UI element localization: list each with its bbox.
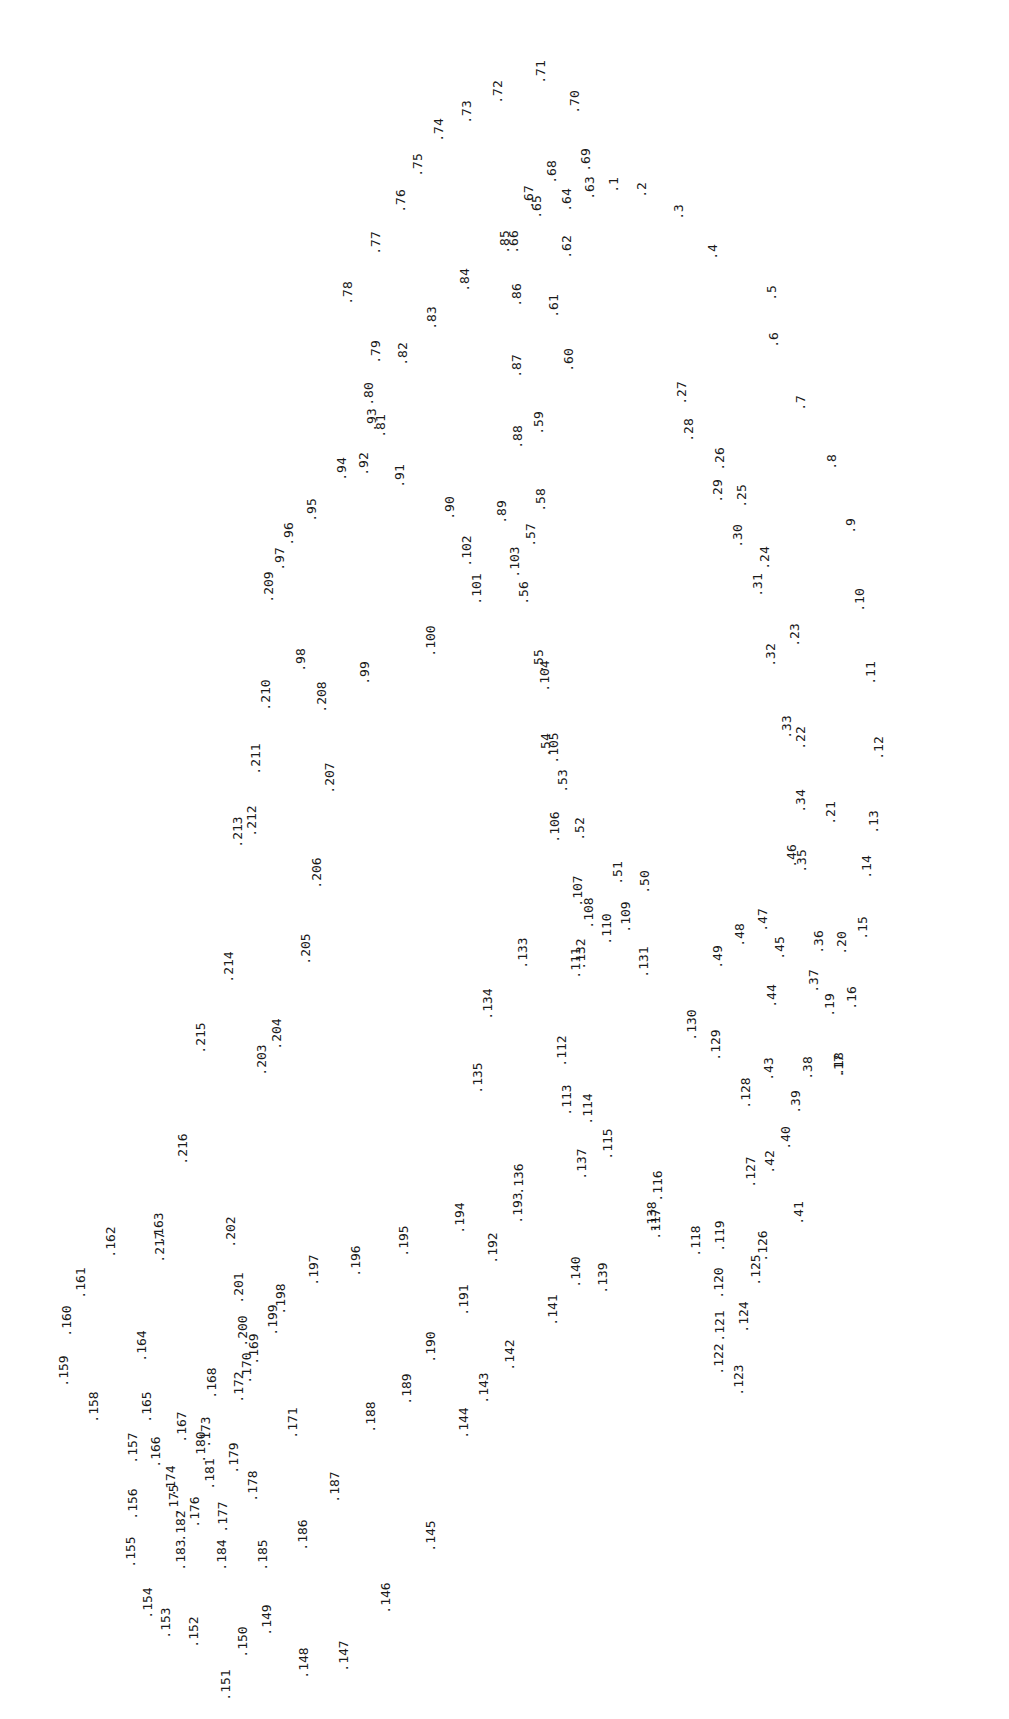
- point-label-96: .96: [282, 522, 295, 545]
- point-label-211: .211: [249, 743, 262, 774]
- point-label-123: .123: [732, 1364, 745, 1395]
- point-label-63: .63: [583, 176, 596, 199]
- point-label-78: .78: [341, 281, 354, 304]
- point-label-59: .59: [532, 411, 545, 434]
- point-label-161: .161: [74, 1267, 87, 1298]
- point-label-105: .105: [547, 732, 560, 763]
- point-label-15: .15: [856, 916, 869, 939]
- point-label-164: .164: [135, 1330, 148, 1361]
- point-label-129: .129: [709, 1029, 722, 1060]
- point-label-162: .162: [104, 1226, 117, 1257]
- point-label-106: .106: [548, 811, 561, 842]
- point-label-102: .102: [460, 535, 473, 566]
- point-label-179: .179: [227, 1442, 240, 1473]
- point-label-213: .213: [231, 816, 244, 847]
- point-label-210: .210: [259, 679, 272, 710]
- point-label-138: .138: [645, 1201, 658, 1232]
- point-label-188: .188: [364, 1401, 377, 1432]
- point-label-206: .206: [310, 857, 323, 888]
- point-label-196: .196: [349, 1245, 362, 1276]
- dot-plot-canvas: .1.2.3.4.5.6.7.8.9.10.11.12.13.14.15.16.…: [0, 0, 1009, 1719]
- point-label-187: .187: [328, 1471, 341, 1502]
- point-label-216: .216: [176, 1133, 189, 1164]
- point-label-115: .115: [601, 1128, 614, 1159]
- point-label-139: .139: [596, 1262, 609, 1293]
- point-label-113: .113: [560, 1084, 573, 1115]
- point-label-26: .26: [713, 447, 726, 470]
- point-label-34: .34: [794, 789, 807, 812]
- point-label-8: .8: [825, 454, 838, 470]
- point-label-142: .142: [503, 1339, 516, 1370]
- point-label-92: .92: [357, 452, 370, 475]
- point-label-128: .128: [739, 1077, 752, 1108]
- point-label-20: .20: [835, 931, 848, 954]
- point-label-147: .147: [337, 1640, 350, 1671]
- point-label-118: .118: [689, 1225, 702, 1256]
- point-label-45: .45: [773, 936, 786, 959]
- point-label-30: .30: [731, 524, 744, 547]
- point-label-5: .5: [765, 285, 778, 301]
- point-label-112: .112: [555, 1035, 568, 1066]
- point-label-48: .48: [733, 923, 746, 946]
- point-label-79: .79: [369, 340, 382, 363]
- point-label-10: .10: [853, 588, 866, 611]
- point-label-36: .36: [812, 930, 825, 953]
- point-label-72: .72: [491, 80, 504, 103]
- point-label-191: .191: [457, 1284, 470, 1315]
- point-label-212: .212: [245, 805, 258, 836]
- point-label-94: .94: [335, 457, 348, 480]
- point-label-68: .68: [545, 160, 558, 183]
- point-label-100: .100: [424, 625, 437, 656]
- point-label-182: .182: [174, 1510, 187, 1541]
- point-label-136: .136: [512, 1163, 525, 1194]
- point-label-134: .134: [481, 988, 494, 1019]
- point-label-52: .52: [573, 817, 586, 840]
- point-label-114: .114: [581, 1093, 594, 1124]
- point-label-31: .31: [751, 573, 764, 596]
- point-label-131: .131: [637, 946, 650, 977]
- point-label-203: .203: [255, 1044, 268, 1075]
- point-label-165: .165: [140, 1391, 153, 1422]
- point-label-217: .217: [153, 1231, 166, 1262]
- point-label-23: .23: [788, 623, 801, 646]
- point-label-177: .177: [216, 1501, 229, 1532]
- point-label-152: .152: [187, 1616, 200, 1647]
- point-label-141: .141: [546, 1294, 559, 1325]
- point-label-109: .109: [619, 901, 632, 932]
- point-label-193: .193: [511, 1192, 524, 1223]
- point-label-135: .135: [471, 1062, 484, 1093]
- point-label-183: .183: [174, 1539, 187, 1570]
- point-label-69: .69: [579, 148, 592, 171]
- point-label-132: .132: [574, 938, 587, 969]
- point-label-83: .83: [425, 306, 438, 329]
- point-label-39: .39: [789, 1090, 802, 1113]
- point-label-57: .57: [524, 523, 537, 546]
- point-label-19: .19: [823, 993, 836, 1016]
- point-label-156: .156: [126, 1488, 139, 1519]
- point-label-76: .76: [394, 189, 407, 212]
- point-label-32: .32: [764, 643, 777, 666]
- point-label-40: .40: [779, 1126, 792, 1149]
- point-label-145: .145: [424, 1520, 437, 1551]
- point-label-90: .90: [443, 496, 456, 519]
- point-label-14: .14: [860, 855, 873, 878]
- point-label-95: .95: [305, 498, 318, 521]
- point-label-133: .133: [516, 937, 529, 968]
- point-label-166: .166: [149, 1436, 162, 1467]
- point-label-62: .62: [560, 235, 573, 258]
- point-label-42: .42: [763, 1150, 776, 1173]
- point-label-75: .75: [411, 153, 424, 176]
- point-label-149: .149: [260, 1604, 273, 1635]
- point-label-201: .201: [232, 1272, 245, 1303]
- point-label-58: .58: [534, 488, 547, 511]
- point-label-50: .50: [638, 870, 651, 893]
- point-label-29: .29: [711, 479, 724, 502]
- point-label-207: .207: [323, 762, 336, 793]
- point-label-110: .110: [600, 913, 613, 944]
- point-label-60: .60: [562, 348, 575, 371]
- point-label-144: .144: [457, 1407, 470, 1438]
- point-label-168: .168: [205, 1367, 218, 1398]
- point-label-190: .190: [424, 1331, 437, 1362]
- point-label-12: .12: [872, 736, 885, 759]
- point-label-89: .89: [495, 500, 508, 523]
